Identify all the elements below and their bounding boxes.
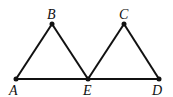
label-d: D — [151, 83, 162, 97]
geometry-diagram: B C A E D — [0, 0, 173, 97]
point-a — [14, 77, 19, 82]
label-c: C — [119, 7, 129, 22]
point-b — [50, 22, 55, 27]
point-d — [157, 77, 162, 82]
label-a: A — [8, 83, 18, 97]
segment-be — [52, 24, 88, 79]
label-e: E — [82, 83, 92, 97]
label-b: B — [47, 7, 56, 22]
point-c — [122, 22, 127, 27]
segment-ab — [16, 24, 52, 79]
segment-ec — [88, 24, 124, 79]
point-e — [86, 77, 91, 82]
segment-cd — [124, 24, 159, 79]
